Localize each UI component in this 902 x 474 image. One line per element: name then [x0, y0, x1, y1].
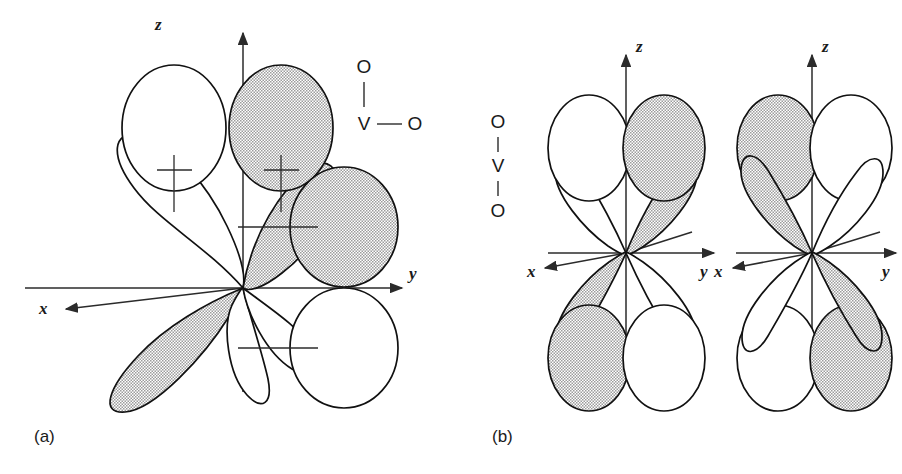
molecule-atom-v: V: [492, 155, 505, 176]
molecule-atom-o-right: O: [408, 113, 423, 134]
oxygen-p-lobe-shaded-bottom-left: [548, 305, 630, 411]
panel-b-molecule-sketch: O V O: [491, 111, 506, 221]
oxygen-p-lobe-white-bottom-right: [623, 305, 705, 411]
panel-b-caption: (b): [492, 427, 513, 446]
x-axis-label: x: [38, 299, 48, 318]
y-axis-label: y: [880, 262, 890, 281]
panel-b-right-subpanel: z y x: [713, 37, 896, 411]
molecule-atom-o-top: O: [357, 56, 372, 77]
x-axis-label: x: [526, 262, 536, 281]
panel-a-molecule-sketch: O V O: [357, 56, 423, 134]
molecule-atom-v: V: [358, 113, 371, 134]
d-lobe-lower-left: [110, 288, 244, 412]
panel-b-left-subpanel: z y x O V O: [491, 37, 714, 411]
molecule-atom-o-top: O: [491, 111, 506, 132]
x-axis-label: x: [713, 262, 723, 281]
z-axis-label: z: [821, 37, 829, 56]
figure-root: z y x O V O (a): [0, 0, 902, 474]
z-axis-label: z: [635, 37, 643, 56]
molecule-atom-o-bottom: O: [491, 200, 506, 221]
oxygen-p-lobe-white-top-left: [548, 95, 630, 201]
z-axis-label: z: [154, 15, 162, 34]
panel-a: z y x O V O (a): [25, 15, 422, 446]
y-axis-label: y: [407, 264, 417, 283]
y-axis-label: y: [698, 262, 708, 281]
panel-a-caption: (a): [34, 427, 55, 446]
orbital-diagram-svg: z y x O V O (a): [0, 0, 902, 474]
oxygen-p-lobe-shaded-top-right: [623, 95, 705, 201]
